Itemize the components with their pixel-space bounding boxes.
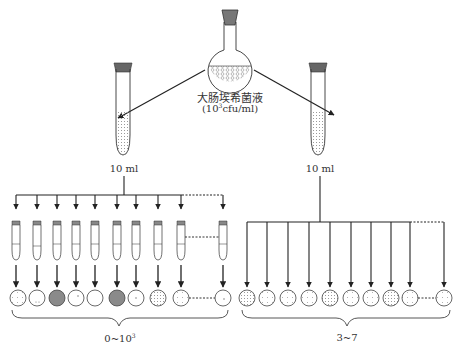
- left-range-label: 0~103: [104, 332, 135, 344]
- arrow-to-right-tube: [254, 70, 334, 115]
- petri-dish-icon: [436, 290, 452, 306]
- concentration-label: (103cfu/ml): [202, 102, 258, 114]
- petri-dish-icon: [383, 290, 399, 306]
- left-distribution-lines: [16, 176, 223, 209]
- left-petri-dishes: [10, 290, 231, 306]
- petri-dish-icon: [68, 290, 84, 306]
- right-petri-dishes: [239, 290, 452, 306]
- flask-icon: [208, 10, 252, 93]
- petri-dish-icon: [87, 290, 103, 306]
- right-distribution-lines: [247, 176, 444, 287]
- petri-dish-icon: [363, 290, 379, 306]
- petri-dish-icon: [280, 290, 296, 306]
- left-volume-label: 10 ml: [110, 163, 139, 174]
- arrow-to-left-tube: [118, 70, 205, 118]
- diagram-canvas: [0, 0, 460, 352]
- left-small-tubes: [12, 221, 227, 260]
- petri-dish-icon: [29, 290, 45, 306]
- dilution-diagram: 大肠埃希菌液 (103cfu/ml) 10 ml 10 ml 0~103 3~7: [0, 0, 460, 352]
- petri-dish-icon: [150, 290, 166, 306]
- petri-dish-icon: [301, 290, 317, 306]
- right-volume-label: 10 ml: [306, 163, 335, 174]
- left-brace: [12, 310, 228, 326]
- petri-dish-icon: [343, 290, 359, 306]
- petri-dish-icon: [322, 290, 338, 306]
- right-range-label: 3~7: [336, 332, 357, 343]
- petri-dish-icon: [173, 290, 189, 306]
- petri-dish-icon: [215, 290, 231, 306]
- petri-dish-icon: [259, 290, 275, 306]
- petri-dish-icon: [49, 290, 65, 306]
- petri-dish-icon: [239, 290, 255, 306]
- right-brace: [242, 310, 450, 326]
- left-test-tube-icon: [114, 63, 132, 155]
- petri-dish-icon: [109, 290, 125, 306]
- left-dish-arrows: [16, 265, 223, 287]
- petri-dish-icon: [10, 290, 26, 306]
- petri-dish-icon: [402, 290, 418, 306]
